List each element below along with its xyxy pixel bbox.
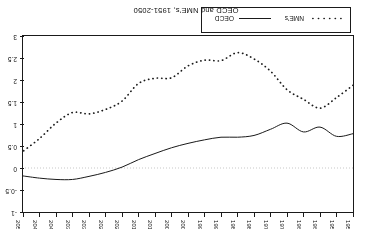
x-tick-label: 2010 — [148, 220, 154, 229]
y-tick-label: 1.5 — [8, 100, 17, 107]
x-tick-mark — [73, 213, 74, 217]
x-tick-mark — [337, 213, 338, 217]
x-tick-label: 1995 — [197, 220, 203, 229]
x-tick-mark — [139, 213, 140, 217]
x-tick-mark — [238, 213, 239, 217]
x-tick-label: 2000 — [181, 220, 187, 229]
x-tick-label: 2015 — [131, 220, 137, 229]
y-tick-label: 2 — [13, 78, 17, 85]
x-tick-label: 1975 — [263, 220, 269, 229]
x-tick-label: 2040 — [49, 220, 55, 229]
x-tick-label: 2020 — [115, 220, 121, 229]
x-tick-mark — [23, 213, 24, 217]
x-tick-label: 2030 — [82, 220, 88, 229]
series-line-oecd — [23, 123, 353, 180]
x-tick-label: 2045 — [32, 220, 38, 229]
y-tick-label: -0.5 — [5, 188, 17, 195]
series-line-nme-s — [23, 53, 353, 152]
x-tick-mark — [155, 213, 156, 217]
y-tick-mark — [20, 190, 24, 191]
x-tick-mark — [205, 213, 206, 217]
x-tick-mark — [271, 213, 272, 217]
x-tick-mark — [122, 213, 123, 217]
x-tick-label: 1990 — [214, 220, 220, 229]
x-tick-label: 1960 — [313, 220, 319, 229]
x-tick-label: 2035 — [65, 220, 71, 229]
x-tick-mark — [254, 213, 255, 217]
plot-svg — [23, 36, 353, 212]
x-tick-mark — [320, 213, 321, 217]
rotated-figure-container: -1-0.500.511.522.53 19501955196019651970… — [0, 0, 372, 229]
x-tick-mark — [287, 213, 288, 217]
legend-label-nmes: NME's — [285, 16, 304, 23]
x-tick-mark — [353, 213, 354, 217]
y-tick-mark — [20, 102, 24, 103]
x-tick-label: 1985 — [230, 220, 236, 229]
x-tick-mark — [106, 213, 107, 217]
x-tick-mark — [56, 213, 57, 217]
x-tick-label: 1970 — [280, 220, 286, 229]
x-tick-mark — [40, 213, 41, 217]
y-tick-mark — [20, 124, 24, 125]
y-tick-label: 2.5 — [8, 56, 17, 63]
chart-title: OECD and NME's, 1951-2050 — [0, 6, 372, 15]
y-tick-label: 3 — [13, 34, 17, 41]
x-tick-label: 2050 — [16, 220, 22, 229]
y-tick-mark — [20, 146, 24, 147]
y-tick-label: 1 — [13, 122, 17, 129]
legend-swatch-dotted — [308, 17, 342, 22]
plot-area — [22, 35, 354, 213]
x-tick-label: 2025 — [98, 220, 104, 229]
x-tick-label: 1965 — [296, 220, 302, 229]
x-tick-mark — [172, 213, 173, 217]
y-tick-mark — [20, 80, 24, 81]
x-tick-mark — [89, 213, 90, 217]
x-tick-mark — [304, 213, 305, 217]
y-tick-mark — [20, 36, 24, 37]
y-tick-mark — [20, 168, 24, 169]
y-tick-label: 0 — [13, 166, 17, 173]
legend-label-oecd: OECD — [215, 16, 234, 23]
x-tick-mark — [188, 213, 189, 217]
x-tick-label: 2005 — [164, 220, 170, 229]
x-tick-label: 1980 — [247, 220, 253, 229]
legend-swatch-solid — [238, 17, 272, 22]
chart-figure: -1-0.500.511.522.53 19501955196019651970… — [0, 0, 372, 229]
y-tick-label: -1 — [11, 210, 17, 217]
x-tick-mark — [221, 213, 222, 217]
x-tick-label: 1950 — [346, 220, 352, 229]
y-tick-mark — [20, 58, 24, 59]
y-tick-label: 0.5 — [8, 144, 17, 151]
x-tick-label: 1955 — [329, 220, 335, 229]
